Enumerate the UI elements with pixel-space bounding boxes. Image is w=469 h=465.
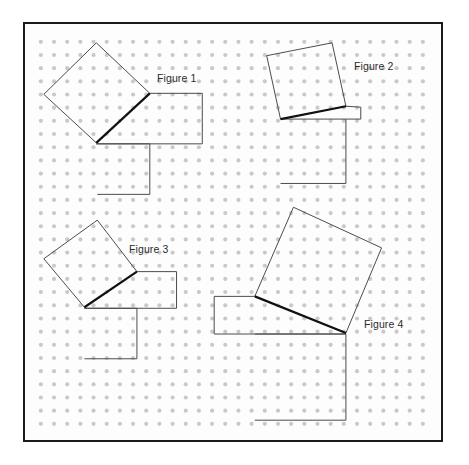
grid-dot — [39, 145, 43, 149]
grid-dot — [184, 211, 188, 215]
grid-dot — [210, 158, 214, 162]
grid-dot — [394, 395, 398, 399]
grid-dot — [289, 132, 293, 136]
grid-dot — [91, 316, 95, 320]
grid-dot — [276, 409, 280, 413]
grid-dot — [302, 106, 306, 110]
grid-dot — [52, 106, 56, 110]
grid-dot — [52, 409, 56, 413]
grid-dot — [118, 264, 122, 268]
grid-dot — [250, 343, 254, 347]
grid-dot — [171, 171, 175, 175]
grid-dot — [368, 211, 372, 215]
grid-dot — [342, 251, 346, 255]
grid-dot — [315, 369, 319, 373]
grid-dot — [91, 409, 95, 413]
grid-dot — [421, 53, 425, 57]
grid-dot — [78, 369, 82, 373]
grid-dot — [421, 330, 425, 334]
grid-dot — [223, 119, 227, 123]
grid-dot — [78, 264, 82, 268]
grid-dot — [289, 409, 293, 413]
grid-dot — [250, 422, 254, 426]
grid-dot — [157, 171, 161, 175]
grid-dot — [157, 343, 161, 347]
grid-dot — [315, 237, 319, 241]
grid-dot — [144, 330, 148, 334]
rect-left-4 — [214, 296, 346, 334]
grid-dot — [302, 198, 306, 202]
grid-dot — [131, 53, 135, 57]
grid-dot — [289, 40, 293, 44]
grid-dot — [118, 185, 122, 189]
grid-dot — [105, 277, 109, 281]
grid-dot — [157, 422, 161, 426]
grid-dot — [250, 382, 254, 386]
grid-dot — [118, 132, 122, 136]
grid-dot — [263, 382, 267, 386]
grid-dot — [236, 303, 240, 307]
grid-dot — [289, 422, 293, 426]
grid-dot — [184, 330, 188, 334]
grid-dot — [315, 211, 319, 215]
grid-dot — [381, 79, 385, 83]
grid-dot — [342, 290, 346, 294]
grid-dot — [250, 395, 254, 399]
grid-dot — [105, 106, 109, 110]
grid-dot — [289, 106, 293, 110]
grid-dot — [329, 290, 333, 294]
grid-dot — [39, 66, 43, 70]
grid-dot — [105, 316, 109, 320]
grid-dot — [355, 422, 359, 426]
grid-dot — [276, 66, 280, 70]
grid-dot — [78, 92, 82, 96]
grid-dot — [91, 92, 95, 96]
grid-dot — [223, 198, 227, 202]
grid-dot — [131, 343, 135, 347]
grid-dot — [157, 330, 161, 334]
grid-dot — [78, 343, 82, 347]
grid-dot — [78, 119, 82, 123]
grid-dot — [52, 277, 56, 281]
grid-dot — [289, 330, 293, 334]
grid-dot — [421, 66, 425, 70]
grid-dot — [315, 382, 319, 386]
grid-dot — [197, 395, 201, 399]
grid-dot — [105, 303, 109, 307]
grid-dot — [39, 92, 43, 96]
grid-dot — [355, 277, 359, 281]
grid-dot — [184, 40, 188, 44]
grid-dot — [65, 171, 69, 175]
grid-dot — [91, 40, 95, 44]
grid-dot — [329, 66, 333, 70]
grid-dot — [131, 356, 135, 360]
grid-dot — [171, 264, 175, 268]
grid-dot — [342, 79, 346, 83]
grid-dot — [210, 343, 214, 347]
grid-dot — [381, 224, 385, 228]
grid-dot — [78, 395, 82, 399]
grid-dot — [355, 330, 359, 334]
grid-dot — [105, 92, 109, 96]
grid-dot — [184, 382, 188, 386]
grid-dot — [131, 198, 135, 202]
grid-dot — [91, 290, 95, 294]
grid-dot — [302, 343, 306, 347]
grid-dot — [368, 185, 372, 189]
grid-dot — [381, 395, 385, 399]
grid-dot — [131, 185, 135, 189]
grid-dot — [144, 343, 148, 347]
grid-dot — [91, 171, 95, 175]
grid-dot — [131, 303, 135, 307]
grid-dot — [78, 224, 82, 228]
grid-dot — [197, 224, 201, 228]
grid-dot — [408, 171, 412, 175]
grid-dot — [91, 53, 95, 57]
grid-dot — [39, 316, 43, 320]
grid-dot — [329, 145, 333, 149]
grid-dot — [131, 224, 135, 228]
grid-dot — [197, 66, 201, 70]
grid-dot — [171, 251, 175, 255]
grid-dot — [171, 343, 175, 347]
grid-dot — [263, 185, 267, 189]
